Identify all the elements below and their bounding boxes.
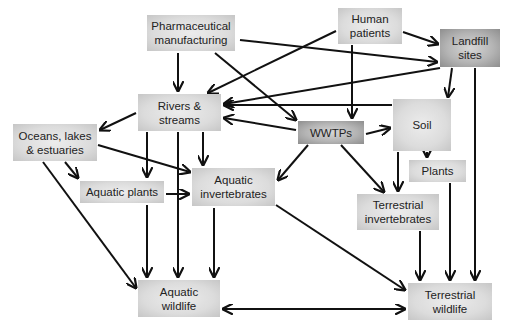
node-pharmaceutical-manufacturing: Pharmaceutical manufacturing — [147, 15, 235, 51]
node-aquatic-wildlife: Aquatic wildlife — [138, 280, 220, 317]
node-landfill-sites: Landfill sites — [440, 29, 500, 67]
node-wwtps: WWTPs — [298, 121, 364, 144]
node-human-patients: Human patients — [338, 8, 402, 44]
edge-wwtps-aquatic-invertebrates — [278, 145, 308, 180]
edge-wwtps-soil — [366, 128, 390, 134]
edge-oceans-aquatic-invertebrates — [98, 145, 190, 172]
node-oceans-lakes-estuaries: Oceans, lakes & estuaries — [13, 124, 97, 161]
edge-wwtps-terrestrial-invertebrates — [341, 145, 384, 192]
edge-pharma-wwtps — [215, 53, 296, 120]
node-terrestrial-invertebrates: Terrestrial invertebrates — [357, 194, 439, 230]
node-plants: Plants — [409, 160, 466, 182]
node-soil: Soil — [393, 99, 451, 151]
node-aquatic-invertebrates: Aquatic invertebrates — [192, 168, 275, 206]
node-aquatic-plants: Aquatic plants — [80, 181, 164, 203]
node-rivers-streams: Rivers & streams — [138, 94, 221, 131]
edge-wwtps-rivers — [224, 118, 296, 130]
edge-rivers-oceans — [100, 113, 136, 130]
edge-landfill-soil — [448, 68, 452, 97]
edge-oceans-aquatic-plants — [65, 162, 78, 178]
node-terrestrial-wildlife: Terrestrial wildlife — [408, 283, 492, 320]
edge-patients-landfill — [403, 32, 438, 44]
